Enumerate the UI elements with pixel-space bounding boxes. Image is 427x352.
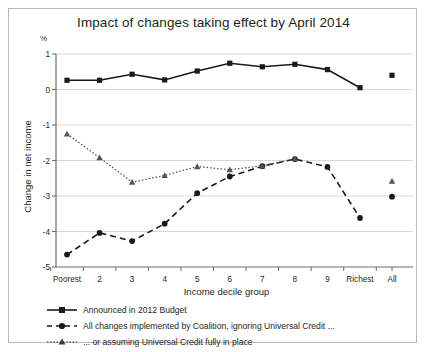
data-point [64,252,70,258]
svg-text:6: 6 [227,275,232,284]
legend-item-coalition: All changes implemented by Coalition, ig… [45,318,413,334]
svg-text:-3: -3 [43,192,51,201]
data-point [357,85,362,90]
svg-text:-2: -2 [43,157,51,166]
legend-marker-triangle-dotted [45,335,79,349]
legend-label-coalition: All changes implemented by Coalition, ig… [79,321,335,331]
data-point [292,62,297,67]
data-point [97,230,103,236]
series-line-1 [67,159,360,255]
svg-text:2: 2 [97,275,102,284]
legend-label-budget: Announced in 2012 Budget [79,305,187,315]
data-point [129,238,135,244]
data-point-all [389,194,395,200]
data-point [357,215,363,221]
x-tick-labels: Poorest23456789RichestAll [53,275,397,284]
legend-marker-square-solid [45,303,79,317]
data-point [64,78,69,83]
gridlines [56,54,413,232]
legend-marker-circle-dashed [45,319,79,333]
svg-text:4: 4 [162,275,167,284]
svg-text:-5: -5 [43,263,51,272]
legend-label-universal-credit: ... or assuming Universal Credit fully i… [79,337,253,347]
svg-text:8: 8 [293,275,298,284]
svg-text:1: 1 [45,50,50,59]
data-point [325,164,331,170]
svg-text:Poorest: Poorest [53,275,82,284]
legend-item-budget: Announced in 2012 Budget [45,302,413,318]
chart-legend: Announced in 2012 Budget All changes imp… [45,302,413,350]
svg-text:7: 7 [260,275,265,284]
data-point [130,72,135,77]
data-series-layer [64,61,395,258]
data-point [325,67,330,72]
svg-text:Richest: Richest [346,275,374,284]
data-point [162,77,167,82]
svg-text:5: 5 [195,275,200,284]
y-tick-labels: 10-1-2-3-4-5 [43,50,51,272]
data-point [260,64,265,69]
svg-text:3: 3 [130,275,135,284]
svg-text:9: 9 [325,275,330,284]
data-point [162,221,168,227]
data-point [64,131,70,137]
svg-text:All: All [387,275,396,284]
svg-text:0: 0 [45,86,50,95]
legend-item-universal-credit: ... or assuming Universal Credit fully i… [45,334,413,350]
data-point [227,61,232,66]
data-point-all [389,73,394,78]
svg-text:-4: -4 [43,228,51,237]
data-point [97,78,102,83]
data-point [227,174,233,180]
series-line-0 [67,63,360,87]
data-point [194,190,200,196]
data-point [195,68,200,73]
data-point [96,154,102,160]
data-point [194,163,200,169]
svg-text:-1: -1 [43,121,51,130]
plot-area: 10-1-2-3-4-5 Poorest23456789RichestAll [9,9,418,344]
chart-figure: Impact of changes taking effect by April… [8,8,417,343]
data-point-all [389,178,395,184]
